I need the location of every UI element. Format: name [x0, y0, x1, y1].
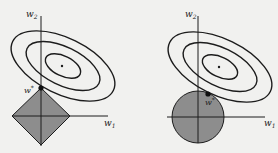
regularization-diagram: w2 w1 w* w2 w1 w* [0, 0, 278, 153]
right-panel-l2: w2 w1 w* [157, 9, 278, 143]
left-y-axis-label: w2 [26, 9, 38, 20]
right-x-axis-label: w1 [264, 118, 276, 129]
right-y-axis-label: w2 [185, 9, 197, 20]
left-optimum-label: w* [24, 84, 34, 95]
right-optimum-dot [205, 91, 210, 96]
left-optimum-dot [38, 85, 43, 90]
left-x-axis-label: w1 [104, 118, 116, 129]
right-center-dot [218, 66, 220, 68]
left-panel-l1: w2 w1 w* [0, 9, 125, 146]
left-center-dot [61, 65, 63, 67]
